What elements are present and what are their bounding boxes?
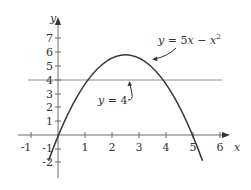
parabola-curve: [49, 55, 203, 161]
svg-text:5: 5: [46, 60, 53, 73]
parabola-label: y = 5x − x2: [157, 32, 221, 47]
x-axis-label: x: [234, 141, 241, 154]
svg-text:7: 7: [46, 32, 53, 45]
line-label: y = 4: [97, 94, 127, 107]
chart: -1 1 2 3 4 5 6 x -2 -1 1 2 3 4 5 6 7 y y…: [0, 0, 251, 190]
svg-text:6: 6: [46, 46, 53, 59]
y-tick-labels: -2 -1 1 2 3 4 5 6 7: [42, 32, 53, 169]
svg-text:1: 1: [46, 115, 53, 128]
svg-text:2: 2: [109, 141, 116, 154]
parabola-label-rest: = 5: [164, 34, 187, 47]
svg-text:4: 4: [46, 74, 53, 87]
svg-text:-2: -2: [42, 156, 53, 169]
svg-text:6: 6: [217, 141, 224, 154]
svg-text:3: 3: [136, 141, 143, 154]
svg-text:2: 2: [46, 101, 53, 114]
x-axis-arrow-icon: [222, 132, 230, 138]
line-pointer-arrow-icon: [128, 81, 133, 86]
svg-text:1: 1: [82, 141, 89, 154]
parabola-pointer-arrow: [155, 48, 176, 59]
svg-text:-1: -1: [21, 141, 32, 154]
parabola-pointer-arrow-icon: [152, 57, 158, 62]
line-pointer-arrow: [128, 84, 132, 100]
svg-text:3: 3: [46, 88, 53, 101]
y-axis-label: y: [49, 12, 57, 25]
svg-text:4: 4: [163, 141, 170, 154]
